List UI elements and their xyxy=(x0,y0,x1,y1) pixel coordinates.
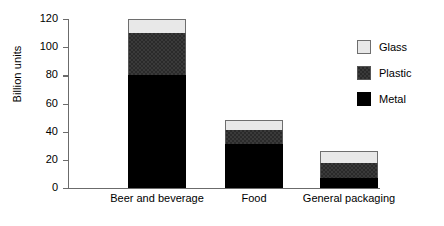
bar-general-packaging[interactable] xyxy=(320,151,378,188)
y-tick xyxy=(63,132,68,133)
y-tick-label: 80 xyxy=(26,68,58,80)
bar-beer-and-beverage[interactable] xyxy=(128,19,186,188)
legend-swatch-glass-icon xyxy=(357,40,371,54)
bar-food[interactable] xyxy=(225,120,283,188)
y-tick xyxy=(63,75,68,76)
x-axis-line xyxy=(68,188,380,189)
x-axis-label: Food xyxy=(241,192,266,204)
bar-segment-glass xyxy=(320,151,378,162)
legend-label-metal: Metal xyxy=(379,93,406,105)
legend-swatch-metal-icon xyxy=(357,92,371,106)
legend-item-metal[interactable]: Metal xyxy=(357,92,411,106)
legend-item-plastic[interactable]: Plastic xyxy=(357,66,411,80)
y-tick xyxy=(63,160,68,161)
y-tick xyxy=(63,19,68,20)
y-tick-label: 40 xyxy=(26,125,58,137)
stacked-bar-chart: Billion units 020406080100120 Beer and b… xyxy=(0,0,444,226)
y-tick-label: 120 xyxy=(26,12,58,24)
y-tick xyxy=(63,47,68,48)
legend-label-glass: Glass xyxy=(379,41,407,53)
y-axis-title: Billion units xyxy=(11,24,23,124)
bar-segment-metal xyxy=(128,75,186,188)
y-tick xyxy=(63,104,68,105)
bar-segment-glass xyxy=(128,19,186,33)
bar-segment-plastic xyxy=(128,33,186,75)
plot-area: 020406080100120 xyxy=(68,19,380,188)
legend-swatch-plastic-icon xyxy=(357,66,371,80)
y-tick-label: 20 xyxy=(26,153,58,165)
bar-segment-metal xyxy=(225,144,283,188)
bar-segment-plastic xyxy=(320,163,378,178)
x-axis-label: General packaging xyxy=(303,192,395,204)
y-tick-label: 100 xyxy=(26,40,58,52)
y-axis-line xyxy=(68,19,69,188)
bar-segment-metal xyxy=(320,178,378,188)
legend-label-plastic: Plastic xyxy=(379,67,411,79)
y-tick-label: 60 xyxy=(26,97,58,109)
legend: Glass Plastic Metal xyxy=(357,40,411,118)
y-tick-label: 0 xyxy=(26,181,58,193)
legend-item-glass[interactable]: Glass xyxy=(357,40,411,54)
y-tick xyxy=(63,188,68,189)
bar-segment-glass xyxy=(225,120,283,130)
x-axis-label: Beer and beverage xyxy=(110,192,204,204)
bar-segment-plastic xyxy=(225,130,283,144)
